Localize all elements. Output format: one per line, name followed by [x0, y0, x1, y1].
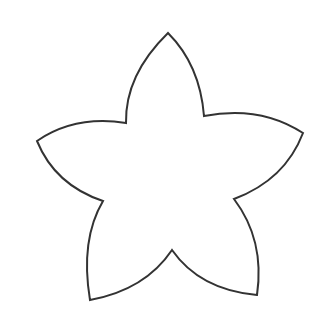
star-flower-path — [37, 33, 303, 300]
drawing-canvas — [0, 0, 322, 328]
star-flower-outline-icon — [0, 0, 322, 328]
